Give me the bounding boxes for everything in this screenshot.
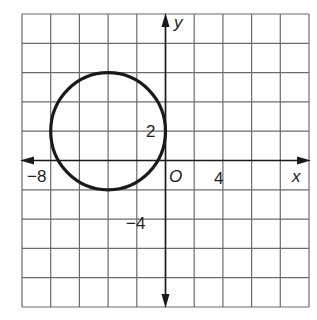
x-tick-label-neg8: −8 bbox=[27, 167, 46, 186]
y-axis-label: y bbox=[173, 13, 184, 32]
x-axis-label: x bbox=[291, 167, 301, 186]
origin-label: O bbox=[169, 167, 182, 186]
y-tick-label-neg4: −4 bbox=[126, 214, 145, 233]
coordinate-plane: y x O −8 4 2 −4 bbox=[0, 0, 317, 320]
x-tick-label-4: 4 bbox=[214, 169, 223, 188]
axes bbox=[20, 13, 311, 308]
y-axis-up-arrow-icon bbox=[162, 13, 170, 27]
y-tick-label-2: 2 bbox=[146, 122, 155, 141]
y-axis-down-arrow-icon bbox=[162, 294, 170, 308]
